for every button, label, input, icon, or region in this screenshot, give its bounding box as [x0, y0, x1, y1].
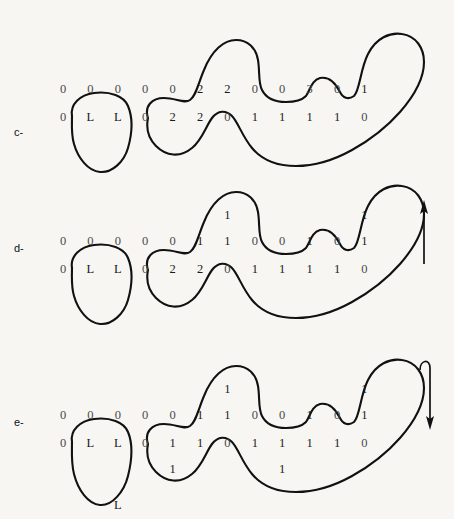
digit-top-row-cell: 0 — [248, 234, 262, 248]
digit-top-row-cell: 0 — [275, 234, 289, 248]
digit-bottom-row-cell: 1 — [330, 436, 344, 450]
digit-bottom-row-cell: 0 — [56, 436, 70, 450]
digit-extra-blob-bottom: L — [111, 498, 125, 512]
digit-bottom-row-cell: 2 — [166, 262, 180, 276]
digit-top-row-cell: 0 — [138, 234, 152, 248]
digit-extra-above: 1 — [220, 208, 234, 222]
digit-bottom-row-cell: L — [111, 262, 125, 276]
digit-bottom-row-cell: 1 — [248, 110, 262, 124]
digit-bottom-row-cell: 1 — [330, 110, 344, 124]
digit-top-row-cell: 1 — [193, 234, 207, 248]
digit-top-row-cell: 0 — [275, 82, 289, 96]
hooked-down-arrow-icon — [412, 354, 436, 436]
digit-bottom-row-cell: L — [83, 110, 97, 124]
digit-top-row-cell: 0 — [166, 82, 180, 96]
digit-bottom-row-cell: 1 — [275, 262, 289, 276]
digit-top-row-cell: 1 — [193, 408, 207, 422]
digit-bottom-row-cell: 2 — [193, 262, 207, 276]
digit-bottom-row-cell: 0 — [220, 110, 234, 124]
digit-bottom-row-cell: 0 — [56, 110, 70, 124]
panel-c: c- 0000022003010LL022011110 — [0, 0, 454, 180]
digit-bottom-row-cell: 0 — [56, 262, 70, 276]
digit-bottom-row-cell: 1 — [275, 436, 289, 450]
digit-bottom-row-cell: 0 — [357, 262, 371, 276]
digit-extra-above: 1 — [220, 382, 234, 396]
digit-top-row-cell: 0 — [248, 408, 262, 422]
digit-top-row-cell: 0 — [56, 234, 70, 248]
digit-top-row-cell: 1 — [357, 408, 371, 422]
digit-top-row-cell: 1 — [303, 408, 317, 422]
digit-top-row-cell: 0 — [138, 82, 152, 96]
digit-bottom-row-cell: 1 — [330, 262, 344, 276]
digit-top-row-cell: 0 — [275, 408, 289, 422]
digit-top-row-cell: 0 — [166, 408, 180, 422]
panel-e-contours — [0, 350, 454, 519]
digit-extra-above: 1 — [357, 208, 371, 222]
digit-bottom-row-cell: 1 — [248, 436, 262, 450]
digit-bottom-row-cell: 1 — [275, 110, 289, 124]
digit-top-row-cell: 1 — [357, 82, 371, 96]
panel-e: e- 0000011001010LL0110111101111L — [0, 350, 454, 519]
digit-top-row-cell: 0 — [111, 234, 125, 248]
digit-top-row-cell: 1 — [220, 408, 234, 422]
digit-bottom-row-cell: 0 — [138, 110, 152, 124]
panel-d: d- 0000011001010LL02201111011 — [0, 180, 454, 350]
digit-top-row-cell: 2 — [220, 82, 234, 96]
figure-root: c- 0000022003010LL022011110 d- 000001100… — [0, 0, 454, 519]
digit-top-row-cell: 3 — [303, 82, 317, 96]
digit-top-row-cell: 2 — [193, 82, 207, 96]
digit-bottom-row-cell: 1 — [303, 436, 317, 450]
digit-top-row-cell: 0 — [83, 408, 97, 422]
digit-top-row-cell: 0 — [111, 82, 125, 96]
digit-bottom-row-cell: 1 — [303, 110, 317, 124]
digit-bottom-row-cell: 2 — [193, 110, 207, 124]
digit-bottom-row-cell: 0 — [357, 436, 371, 450]
digit-bottom-row-cell: L — [111, 436, 125, 450]
digit-bottom-row-cell: 0 — [220, 262, 234, 276]
digit-top-row-cell: 0 — [83, 82, 97, 96]
digit-top-row-cell: 0 — [330, 82, 344, 96]
digit-top-row-cell: 1 — [357, 234, 371, 248]
digit-top-row-cell: 0 — [330, 408, 344, 422]
digit-extra-below: 1 — [275, 462, 289, 476]
digit-bottom-row-cell: 2 — [166, 110, 180, 124]
digit-bottom-row-cell: L — [111, 110, 125, 124]
digit-top-row-cell: 1 — [220, 234, 234, 248]
digit-bottom-row-cell: L — [83, 436, 97, 450]
digit-bottom-row-cell: 0 — [220, 436, 234, 450]
up-arrow-icon — [414, 198, 434, 272]
digit-top-row-cell: 0 — [138, 408, 152, 422]
digit-top-row-cell: 0 — [56, 82, 70, 96]
digit-bottom-row-cell: L — [83, 262, 97, 276]
digit-extra-above: 1 — [357, 382, 371, 396]
digit-bottom-row-cell: 1 — [166, 436, 180, 450]
digit-top-row-cell: 0 — [111, 408, 125, 422]
digit-top-row-cell: 0 — [166, 234, 180, 248]
digit-extra-below: 1 — [166, 462, 180, 476]
digit-bottom-row-cell: 0 — [357, 110, 371, 124]
digit-top-row-cell: 0 — [248, 82, 262, 96]
digit-top-row-cell: 0 — [56, 408, 70, 422]
digit-top-row-cell: 0 — [83, 234, 97, 248]
digit-top-row-cell: 1 — [303, 234, 317, 248]
digit-bottom-row-cell: 1 — [303, 262, 317, 276]
digit-bottom-row-cell: 0 — [138, 262, 152, 276]
digit-bottom-row-cell: 1 — [248, 262, 262, 276]
digit-bottom-row-cell: 1 — [193, 436, 207, 450]
digit-top-row-cell: 0 — [330, 234, 344, 248]
digit-bottom-row-cell: 0 — [138, 436, 152, 450]
